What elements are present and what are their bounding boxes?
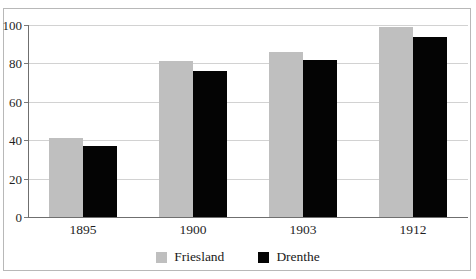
bar-friesland-1900: [159, 61, 193, 217]
bar-friesland-1903: [269, 52, 303, 217]
y-axis-tick-label: 0: [0, 211, 22, 224]
plot-area: [28, 25, 468, 217]
legend-swatch-icon: [258, 252, 269, 263]
bar-drenthe-1912: [413, 37, 447, 217]
x-axis-label-1895: 1895: [28, 222, 138, 238]
x-axis-label-1903: 1903: [248, 222, 358, 238]
bar-drenthe-1900: [193, 71, 227, 217]
x-axis-line: [28, 217, 468, 218]
scan-artifact: [0, 0, 476, 6]
x-axis-label-1912: 1912: [358, 222, 468, 238]
y-axis-tick-label: 40: [0, 134, 22, 147]
legend-label: Friesland: [174, 250, 224, 264]
bar-friesland-1895: [49, 138, 83, 217]
chart-legend: FrieslandDrenthe: [0, 250, 476, 264]
legend-swatch-icon: [156, 252, 167, 263]
legend-item-friesland: Friesland: [156, 250, 224, 264]
legend-label: Drenthe: [276, 250, 319, 264]
bar-friesland-1912: [379, 27, 413, 217]
y-axis-tick-label: 100: [0, 19, 22, 32]
y-axis-tick-label: 20: [0, 173, 22, 186]
bar-chart-figure: 020406080100 1895190019031912 FrieslandD…: [0, 0, 476, 279]
legend-item-drenthe: Drenthe: [258, 250, 319, 264]
y-axis-tick-label: 60: [0, 96, 22, 109]
y-axis-tick-label: 80: [0, 57, 22, 70]
x-axis-label-1900: 1900: [138, 222, 248, 238]
bar-drenthe-1903: [303, 60, 337, 217]
bar-drenthe-1895: [83, 146, 117, 217]
